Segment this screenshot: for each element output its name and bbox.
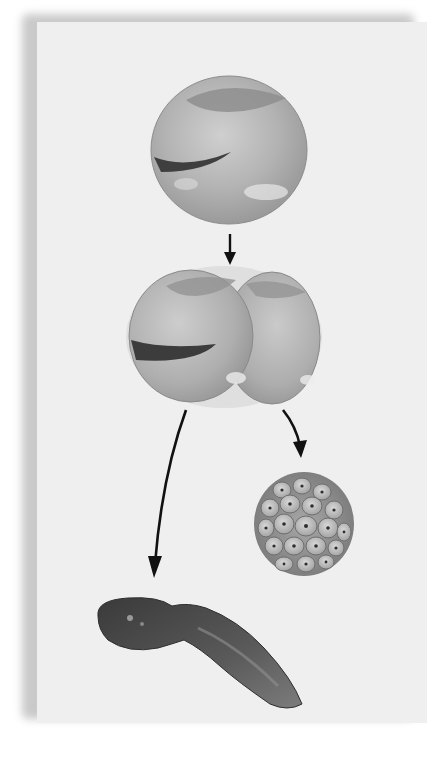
egg-sphere-icon [146,72,312,228]
arrow-down-icon [222,234,238,266]
tadpole-icon [88,586,310,714]
curved-arrow-right-icon [280,408,310,460]
curved-arrow-left-icon [140,406,190,582]
tadpole-stage [88,586,310,714]
two-cell-stage [126,266,322,408]
two-cell-embryo-icon [126,266,322,408]
arrow-two-cell-to-tadpole [140,406,190,582]
blastula-cell-cluster-icon [252,468,356,578]
egg-stage [146,72,312,228]
arrow-egg-to-two-cell [222,234,238,266]
arrow-two-cell-to-blastula [280,408,310,460]
blastula-stage [252,468,356,578]
